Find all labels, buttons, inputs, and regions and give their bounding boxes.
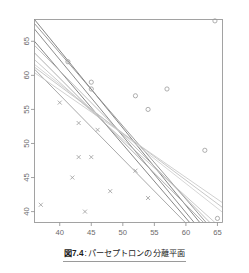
- y-tick-label: 65: [23, 37, 32, 45]
- figure-container: 404550556065 404550556065 図7.4:パーセプトロンの分…: [0, 0, 249, 273]
- x-tick-label: 50: [119, 228, 127, 237]
- caption-number: 図7.4: [64, 249, 83, 258]
- marker-circle: [146, 107, 150, 111]
- caption-text: パーセプトロンの分離平面: [88, 249, 185, 258]
- data-point-markers: [39, 19, 220, 221]
- plot-frame: [35, 20, 223, 223]
- y-tick-label: 60: [23, 71, 32, 79]
- plot-svg: 404550556065 404550556065: [0, 0, 249, 240]
- hyperplane-line-9: [35, 69, 186, 222]
- hyperplane-line-10: [35, 73, 223, 203]
- caption-inner: 図7.4:パーセプトロンの分離平面: [63, 248, 186, 262]
- hyperplane-line-5: [35, 53, 204, 223]
- hyperplane-line-7: [35, 64, 223, 212]
- x-tick-label: 55: [150, 228, 158, 237]
- marker-circle: [215, 216, 219, 220]
- marker-circle: [203, 148, 207, 152]
- y-tick-label: 40: [23, 207, 32, 215]
- marker-circle: [165, 87, 169, 91]
- y-tick-label: 45: [23, 173, 32, 181]
- marker-circle: [133, 94, 137, 98]
- hyperplane-line-0: [35, 20, 200, 223]
- marker-circle: [89, 80, 93, 84]
- y-axis-tick-labels: 404550556065: [23, 37, 32, 216]
- scatter-plot: 404550556065 404550556065: [0, 0, 249, 240]
- x-tick-label: 65: [213, 228, 221, 237]
- x-tick-label: 40: [56, 228, 64, 237]
- figure-caption: 図7.4:パーセプトロンの分離平面: [0, 248, 249, 262]
- y-tick-label: 50: [23, 139, 32, 147]
- x-tick-label: 45: [87, 228, 95, 237]
- x-axis-tick-labels: 404550556065: [56, 228, 222, 237]
- x-tick-label: 60: [182, 228, 190, 237]
- separating-hyperplane-lines: [35, 20, 223, 223]
- hyperplane-line-6: [35, 60, 215, 223]
- y-tick-label: 55: [23, 105, 32, 113]
